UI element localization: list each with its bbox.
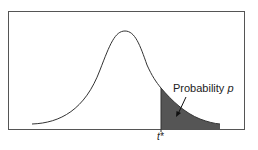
shaded-tail	[161, 88, 220, 130]
density-diagram	[0, 0, 258, 150]
probability-var: p	[227, 82, 233, 94]
t-star-label: t*	[157, 131, 164, 142]
density-curve	[32, 31, 220, 124]
plot-frame	[9, 12, 245, 130]
probability-label: Probability p	[173, 82, 234, 94]
probability-label-text: Probability	[173, 82, 227, 94]
